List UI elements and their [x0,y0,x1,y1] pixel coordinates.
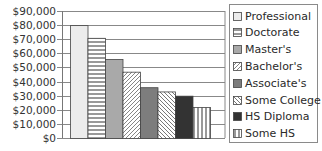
y-tick-label: $70,000 [0,33,56,45]
legend-item: Some College [233,93,321,107]
legend-label: Associate's [245,77,306,90]
legend: ProfessionalDoctorateMaster'sBachelor'sA… [229,4,318,143]
legend-label: Professional [245,10,311,23]
bar-some-hs [193,107,211,138]
bar-doctorate [88,38,106,138]
legend-swatch-icon [233,28,242,37]
legend-swatch-icon [233,62,242,71]
legend-swatch-icon [233,112,242,121]
legend-label: Some College [245,94,321,107]
legend-label: Bachelor's [245,60,302,73]
bar-professional [71,26,89,139]
bar-chart: $0$10,000$20,000$30,000$40,000$50,000$60… [0,0,322,151]
y-tick-label: $0 [0,132,56,144]
y-tick-label: $20,000 [0,104,56,116]
y-tick-label: $50,000 [0,61,56,73]
legend-item: Bachelor's [233,59,302,73]
legend-swatch-icon [233,79,242,88]
legend-item: HS Diploma [233,110,310,124]
bar-some-college [158,92,176,139]
bar-associate-s [141,88,159,139]
legend-item: Professional [233,9,311,23]
legend-swatch-icon [233,129,242,138]
y-tick-label: $80,000 [0,19,56,31]
y-tick-label: $40,000 [0,76,56,88]
legend-swatch-icon [233,96,242,105]
bar-bachelor-s [123,72,141,138]
y-tick-label: $90,000 [0,5,56,17]
legend-item: Master's [233,43,291,57]
y-tick-label: $60,000 [0,47,56,59]
y-tick-label: $10,000 [0,118,56,130]
legend-swatch-icon [233,45,242,54]
legend-item: Some HS [233,127,295,141]
legend-swatch-icon [233,12,242,21]
legend-label: Some HS [245,127,295,140]
legend-label: HS Diploma [245,110,310,123]
legend-label: Doctorate [245,26,300,39]
legend-item: Associate's [233,76,306,90]
bar-hs-diploma [176,96,194,138]
legend-label: Master's [245,43,291,56]
bar-master-s [106,59,124,138]
legend-item: Doctorate [233,26,300,40]
y-tick-label: $30,000 [0,90,56,102]
